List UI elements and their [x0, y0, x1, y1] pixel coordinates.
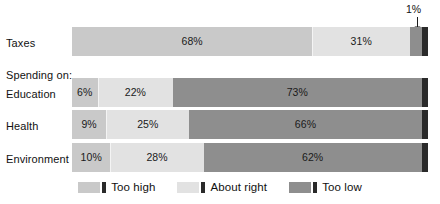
segment-education-about-right: 22% [98, 78, 173, 107]
bar-environment: 10% 28% 62% [72, 143, 428, 172]
legend-swatch-too-high-icon [78, 182, 106, 193]
segment-taxes-about-right: 31% [312, 27, 410, 56]
segment-taxes-too-high: 68% [72, 27, 312, 56]
bar-end-cap-health [422, 110, 428, 139]
legend-item-too-high[interactable]: Too high [78, 182, 155, 194]
stacked-bar-chart: Taxes Spending on: Education Health Envi… [0, 0, 440, 204]
row-label-taxes: Taxes [6, 38, 35, 49]
bar-end-cap-education [422, 78, 428, 107]
bar-end-cap-environment [422, 143, 428, 172]
legend-label-too-high: Too high [111, 182, 155, 194]
legend-swatch-about-right-icon [177, 182, 205, 193]
legend-label-too-low: Too low [322, 182, 362, 194]
callout-label: 1% [406, 4, 421, 15]
bar-taxes: 68% 31% [72, 27, 428, 56]
chart-legend: Too high About right Too low [0, 182, 440, 194]
row-label-environment: Environment [6, 154, 69, 165]
bar-health: 9% 25% 66% [72, 110, 428, 139]
segment-environment-too-low: 62% [204, 143, 422, 172]
legend-item-too-low[interactable]: Too low [289, 182, 362, 194]
segment-education-too-low: 73% [173, 78, 421, 107]
segment-health-about-right: 25% [106, 110, 189, 139]
segment-environment-too-high: 10% [72, 143, 110, 172]
legend-item-about-right[interactable]: About right [177, 182, 267, 194]
segment-education-too-high: 6% [72, 78, 98, 107]
bar-end-cap-taxes [422, 27, 428, 56]
segment-health-too-high: 9% [72, 110, 106, 139]
bar-education: 6% 22% 73% [72, 78, 428, 107]
legend-swatch-too-low-icon [289, 182, 317, 193]
row-label-education: Education [6, 89, 56, 100]
row-label-health: Health [6, 121, 38, 132]
segment-health-too-low: 66% [189, 110, 421, 139]
legend-label-about-right: About right [210, 182, 267, 194]
segment-environment-about-right: 28% [110, 143, 203, 172]
segment-taxes-too-low [410, 27, 421, 56]
group-header-spending-on: Spending on: [6, 70, 72, 81]
